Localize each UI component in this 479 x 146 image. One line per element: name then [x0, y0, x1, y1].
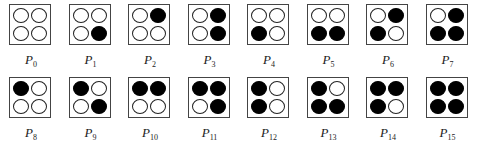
circle-icon	[329, 81, 345, 96]
circle-icon	[73, 26, 89, 41]
circle-icon	[251, 8, 267, 23]
label-letter: P	[380, 125, 388, 140]
pattern-cell: P1	[61, 1, 121, 71]
pattern-box	[9, 4, 51, 45]
label-subscript: 8	[33, 133, 37, 142]
pattern-cell: P5	[299, 1, 359, 71]
label-letter: P	[142, 125, 150, 140]
pattern-box	[247, 4, 289, 45]
circle-icon	[251, 26, 267, 41]
pattern-label: P3	[180, 52, 240, 69]
circle-icon	[13, 8, 29, 23]
label-subscript: 11	[210, 133, 218, 142]
label-subscript: 3	[211, 60, 215, 69]
pattern-box	[307, 4, 349, 45]
circle-icon	[91, 26, 107, 41]
pattern-label: P4	[239, 52, 299, 69]
circle-icon	[448, 99, 464, 114]
label-subscript: 14	[388, 133, 396, 142]
label-subscript: 12	[269, 133, 277, 142]
circle-icon	[329, 8, 345, 23]
circle-icon	[311, 8, 327, 23]
circle-icon	[448, 26, 464, 41]
pattern-box	[9, 77, 51, 118]
pattern-label: P7	[418, 52, 478, 69]
circle-icon	[329, 99, 345, 114]
circle-icon	[210, 26, 226, 41]
circle-icon	[210, 99, 226, 114]
pattern-label: P6	[358, 52, 418, 69]
circle-icon	[31, 26, 47, 41]
circle-icon	[448, 81, 464, 96]
label-subscript: 10	[150, 133, 158, 142]
circle-icon	[430, 8, 446, 23]
pattern-label: P9	[61, 125, 121, 142]
circle-icon	[13, 99, 29, 114]
label-subscript: 4	[271, 60, 275, 69]
circle-icon	[388, 26, 404, 41]
circle-icon	[388, 99, 404, 114]
circle-icon	[370, 81, 386, 96]
pattern-cell: P2	[120, 1, 180, 71]
circle-icon	[13, 26, 29, 41]
label-subscript: 1	[92, 60, 96, 69]
label-subscript: 2	[152, 60, 156, 69]
label-letter: P	[261, 125, 269, 140]
circle-icon	[192, 8, 208, 23]
circle-icon	[13, 81, 29, 96]
circle-icon	[269, 81, 285, 96]
pattern-label: P15	[418, 125, 478, 142]
label-subscript: 13	[328, 133, 336, 142]
label-letter: P	[382, 52, 390, 67]
circle-icon	[448, 8, 464, 23]
circle-icon	[132, 81, 148, 96]
circle-icon	[388, 81, 404, 96]
pattern-box	[366, 4, 408, 45]
circle-icon	[251, 99, 267, 114]
pattern-label: P5	[299, 52, 359, 69]
pattern-label: P10	[120, 125, 180, 142]
pattern-cell: P7	[418, 1, 478, 71]
circle-icon	[269, 8, 285, 23]
pattern-label: P1	[61, 52, 121, 69]
circle-icon	[430, 81, 446, 96]
pattern-box	[426, 4, 468, 45]
circle-icon	[150, 99, 166, 114]
circle-icon	[150, 26, 166, 41]
circle-icon	[150, 8, 166, 23]
pattern-box	[188, 4, 230, 45]
pattern-label: P8	[1, 125, 61, 142]
circle-icon	[132, 8, 148, 23]
pattern-box	[69, 77, 111, 118]
pattern-grid: P0P1P2P3P4P5P6P7P8P9P10P11P12P13P14P15	[0, 0, 479, 146]
circle-icon	[31, 99, 47, 114]
label-subscript: 0	[33, 60, 37, 69]
pattern-cell: P10	[120, 74, 180, 144]
pattern-box	[426, 77, 468, 118]
pattern-label: P13	[299, 125, 359, 142]
circle-icon	[73, 99, 89, 114]
label-subscript: 5	[330, 60, 334, 69]
pattern-cell: P6	[358, 1, 418, 71]
circle-icon	[311, 81, 327, 96]
circle-icon	[311, 99, 327, 114]
pattern-box	[69, 4, 111, 45]
circle-icon	[91, 81, 107, 96]
circle-icon	[210, 81, 226, 96]
pattern-label: P11	[180, 125, 240, 142]
pattern-cell: P11	[180, 74, 240, 144]
pattern-box	[128, 4, 170, 45]
circle-icon	[430, 26, 446, 41]
circle-icon	[132, 99, 148, 114]
circle-icon	[73, 8, 89, 23]
circle-icon	[269, 26, 285, 41]
pattern-cell: P13	[299, 74, 359, 144]
pattern-cell: P14	[358, 74, 418, 144]
pattern-cell: P0	[1, 1, 61, 71]
label-letter: P	[144, 52, 152, 67]
pattern-label: P12	[239, 125, 299, 142]
circle-icon	[311, 26, 327, 41]
circle-icon	[73, 81, 89, 96]
pattern-box	[247, 77, 289, 118]
circle-icon	[31, 8, 47, 23]
